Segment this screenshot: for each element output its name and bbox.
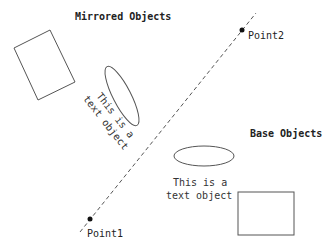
mirrored-objects-heading: Mirrored Objects	[75, 11, 171, 22]
base-rectangle[interactable]	[238, 192, 294, 235]
point1-marker-icon[interactable]	[88, 217, 93, 222]
point2-label: Point2	[248, 30, 284, 41]
base-text-object[interactable]: This is a text object	[166, 177, 232, 201]
base-objects-heading: Base Objects	[250, 128, 322, 139]
base-text-line1: This is a	[173, 177, 227, 188]
base-ellipse[interactable]	[174, 146, 234, 166]
point1-label: Point1	[87, 228, 123, 239]
point2-marker-icon[interactable]	[240, 28, 245, 33]
base-text-line2: text object	[166, 190, 232, 201]
mirror-diagram-canvas: Mirrored Objects Base Objects Point2 Poi…	[0, 0, 323, 251]
mirrored-rectangle[interactable]	[14, 30, 75, 100]
